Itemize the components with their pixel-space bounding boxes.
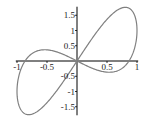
x-tick-label: -1 (13, 62, 21, 72)
y-tick-label: -0.5 (61, 71, 76, 81)
y-tick-label: 1.5 (64, 10, 76, 20)
parametric-plot: -1-0.50.511.510.5-0.5-1-1.5 (0, 0, 147, 122)
y-tick-label: 0.5 (64, 41, 76, 51)
y-tick-label: 1 (71, 26, 76, 36)
x-tick-label: -0.5 (40, 62, 55, 72)
y-tick-label: -1.5 (61, 102, 76, 112)
x-tick-label: 0.5 (101, 62, 113, 72)
y-tick-label: -1 (68, 87, 76, 97)
x-tick-label: 1 (135, 62, 140, 72)
